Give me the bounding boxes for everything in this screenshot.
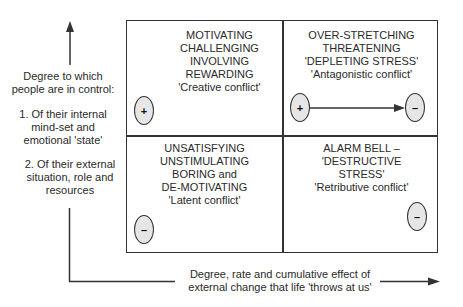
quadrant-line: MOTIVATING xyxy=(157,29,282,42)
minus-sign: – xyxy=(412,102,418,114)
quadrant-line: BORING and xyxy=(127,168,282,181)
minus-marker-icon: – xyxy=(134,215,154,244)
quadrant-line: 'Antagonistic conflict' xyxy=(284,68,439,81)
quadrant-line: UNSATISFYING xyxy=(127,142,282,155)
plus-sign: + xyxy=(297,102,303,114)
x-axis-arrow-icon xyxy=(428,278,440,286)
quadrant-line: DE-MOTIVATING xyxy=(127,181,282,194)
minus-marker-icon: – xyxy=(405,93,425,122)
x-axis-title: Degree, rate and cumulative effect of ex… xyxy=(180,268,380,294)
quadrant-bottom-right-text: ALARM BELL – 'DESTRUCTIVE STRESS' 'Retri… xyxy=(284,142,439,194)
plus-marker-icon: + xyxy=(290,93,310,122)
horizontal-divider xyxy=(127,135,437,137)
quadrant-top-left-text: MOTIVATING CHALLENGING INVOLVING REWARDI… xyxy=(157,29,282,94)
quadrant-line: OVER-STRETCHING xyxy=(284,29,439,42)
quadrant-line: 'Latent conflict' xyxy=(127,194,282,207)
minus-marker-icon: – xyxy=(407,202,427,231)
x-axis-title-line1: Degree, rate and cumulative effect of xyxy=(180,268,380,281)
quadrant-bottom-left-text: UNSATISFYING UNSTIMULATING BORING and DE… xyxy=(127,142,282,207)
quadrant-line: 'DEPLETING STRESS' xyxy=(284,55,439,68)
plus-sign: + xyxy=(141,105,147,117)
transition-arrow-icon xyxy=(310,101,405,115)
quadrant-line: INVOLVING xyxy=(157,55,282,68)
quadrant-line: CHALLENGING xyxy=(157,42,282,55)
quadrant-line: REWARDING xyxy=(157,68,282,81)
quadrant-line: 'Retributive conflict' xyxy=(284,181,439,194)
quadrant-line: UNSTIMULATING xyxy=(127,155,282,168)
quadrant-line: THREATENING xyxy=(284,42,439,55)
x-axis-title-line2: external change that life 'throws at us' xyxy=(180,281,380,294)
quadrant-grid: MOTIVATING CHALLENGING INVOLVING REWARDI… xyxy=(126,20,438,253)
quadrant-line: 'DESTRUCTIVE xyxy=(284,155,439,168)
quadrant-line: ALARM BELL – xyxy=(284,142,439,155)
quadrant-line: STRESS' xyxy=(284,168,439,181)
minus-sign: – xyxy=(141,224,147,236)
quadrant-top-right-text: OVER-STRETCHING THREATENING 'DEPLETING S… xyxy=(284,29,439,81)
quadrant-line: 'Creative conflict' xyxy=(157,81,282,94)
minus-sign: – xyxy=(414,211,420,223)
plus-marker-icon: + xyxy=(134,96,154,125)
